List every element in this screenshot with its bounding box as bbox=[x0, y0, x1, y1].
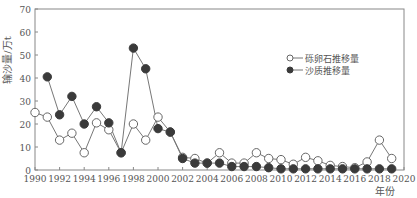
open-circle-marker bbox=[129, 120, 137, 128]
filled-circle-marker bbox=[203, 159, 211, 167]
filled-circle-marker bbox=[191, 159, 199, 167]
y-tick-label: 50 bbox=[20, 51, 32, 61]
open-circle-marker bbox=[314, 157, 322, 165]
y-tick-label: 30 bbox=[20, 97, 32, 107]
x-tick-label: 2012 bbox=[294, 174, 317, 184]
x-tick-label: 2020 bbox=[393, 174, 416, 184]
x-tick-label: 2010 bbox=[270, 174, 293, 184]
filled-circle-marker bbox=[55, 111, 63, 119]
y-axis-label: 输沙量/万t bbox=[1, 36, 13, 83]
x-tick-label: 1996 bbox=[97, 174, 120, 184]
open-circle-marker bbox=[80, 149, 88, 157]
legend: 砾卵石推移量沙质推移量 bbox=[287, 53, 359, 76]
filled-circle-marker bbox=[338, 165, 346, 173]
filled-circle-marker bbox=[289, 165, 297, 173]
open-circle-marker bbox=[31, 108, 39, 116]
filled-circle-marker bbox=[252, 162, 260, 170]
open-circle-marker bbox=[92, 119, 100, 127]
filled-circle-marker bbox=[43, 73, 51, 81]
x-tick-label: 1992 bbox=[48, 174, 71, 184]
x-tick-label: 2018 bbox=[368, 174, 391, 184]
filled-circle-marker bbox=[105, 119, 113, 127]
sediment-transport-chart: 0102030405060701990199219941996199820002… bbox=[0, 0, 417, 198]
open-circle-marker bbox=[154, 113, 162, 121]
open-circle-marker bbox=[388, 154, 396, 162]
x-tick-label: 2016 bbox=[343, 174, 366, 184]
filled-circle-marker bbox=[314, 165, 322, 173]
y-tick-label: 20 bbox=[20, 120, 32, 130]
x-tick-label: 2002 bbox=[171, 174, 194, 184]
filled-circle-marker bbox=[142, 65, 150, 73]
y-tick-label: 70 bbox=[20, 5, 32, 15]
filled-circle-marker bbox=[363, 165, 371, 173]
filled-circle-marker bbox=[375, 165, 383, 173]
filled-circle-marker bbox=[388, 165, 396, 173]
filled-circle-marker bbox=[240, 162, 248, 170]
open-circle-marker bbox=[68, 129, 76, 137]
filled-circle-marker bbox=[129, 44, 137, 52]
open-circle-marker bbox=[265, 154, 273, 162]
x-tick-label: 1998 bbox=[122, 174, 145, 184]
x-tick-label: 2000 bbox=[147, 174, 170, 184]
y-tick-label: 60 bbox=[20, 28, 32, 38]
x-tick-label: 2014 bbox=[319, 174, 342, 184]
x-tick-label: 1994 bbox=[73, 174, 96, 184]
filled-circle-marker bbox=[351, 165, 359, 173]
filled-circle-marker bbox=[178, 154, 186, 162]
filled-circle-marker bbox=[228, 162, 236, 170]
x-tick-label: 2004 bbox=[196, 174, 219, 184]
filled-circle-marker bbox=[154, 124, 162, 132]
filled-circle-marker bbox=[265, 164, 273, 172]
series-line bbox=[35, 113, 392, 168]
open-circle-marker bbox=[43, 113, 51, 121]
legend-label: 沙质推移量 bbox=[305, 65, 350, 76]
filled-circle-marker bbox=[326, 165, 334, 173]
filled-circle-marker bbox=[80, 120, 88, 128]
open-circle-marker bbox=[215, 149, 223, 157]
open-circle-marker bbox=[55, 136, 63, 144]
filled-circle-marker bbox=[215, 159, 223, 167]
filled-circle-marker bbox=[166, 128, 174, 136]
plot-frame bbox=[35, 9, 404, 170]
legend-filled-circle-icon bbox=[287, 67, 293, 73]
filled-circle-marker bbox=[68, 92, 76, 100]
filled-circle-marker bbox=[277, 165, 285, 173]
legend-open-circle-icon bbox=[287, 55, 293, 61]
y-tick-label: 40 bbox=[20, 74, 32, 84]
y-tick-label: 10 bbox=[20, 143, 32, 153]
filled-circle-marker bbox=[301, 165, 309, 173]
filled-circle-marker bbox=[92, 103, 100, 111]
open-circle-marker bbox=[375, 136, 383, 144]
x-tick-label: 1990 bbox=[24, 174, 47, 184]
open-circle-marker bbox=[142, 136, 150, 144]
open-circle-marker bbox=[301, 153, 309, 161]
filled-circle-marker bbox=[117, 149, 125, 157]
x-axis-label: 年份 bbox=[375, 185, 395, 197]
chart-canvas: 0102030405060701990199219941996199820002… bbox=[0, 0, 417, 198]
open-circle-marker bbox=[252, 149, 260, 157]
legend-label: 砾卵石推移量 bbox=[305, 53, 359, 64]
open-circle-marker bbox=[277, 155, 285, 163]
x-tick-label: 2008 bbox=[245, 174, 268, 184]
x-tick-label: 2006 bbox=[220, 174, 243, 184]
axes: 0102030405060701990199219941996199820002… bbox=[20, 5, 416, 185]
